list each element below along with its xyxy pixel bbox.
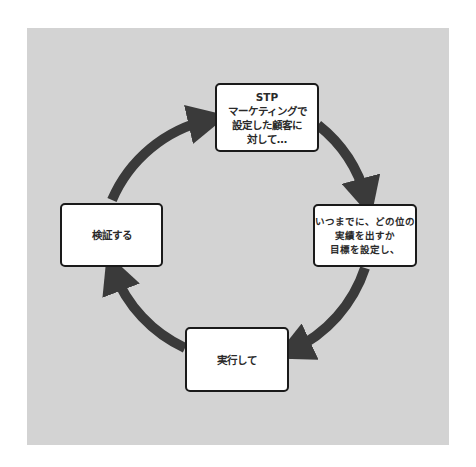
arrow-right-to-bottom [292, 268, 365, 350]
step-box-bottom: 実行して [185, 327, 289, 392]
step-box-left: 検証する [60, 203, 163, 267]
arrow-top-to-right [318, 125, 366, 198]
step-bottom-line-1: 実行して [217, 353, 257, 367]
step-box-right: いつまでに、どの位の 実績を出すか 目標を設定し、 [313, 204, 417, 267]
step-top-line-3: 設定した顧客に [232, 118, 302, 132]
step-top-line-2: マーケティングで [228, 104, 307, 118]
step-top-line-4: 対して… [247, 132, 288, 146]
step-box-top: STP マーケティングで 設定した顧客に 対して… [215, 83, 319, 152]
step-right-line-1: いつまでに、どの位の [315, 215, 415, 229]
step-left-line-1: 検証する [92, 228, 132, 242]
step-top-line-1: STP [256, 90, 278, 104]
step-right-line-3: 目標を設定し、 [330, 243, 400, 257]
arrow-bottom-to-left [114, 272, 185, 348]
arrow-left-to-top [112, 120, 208, 200]
step-right-line-2: 実績を出すか [335, 229, 395, 243]
